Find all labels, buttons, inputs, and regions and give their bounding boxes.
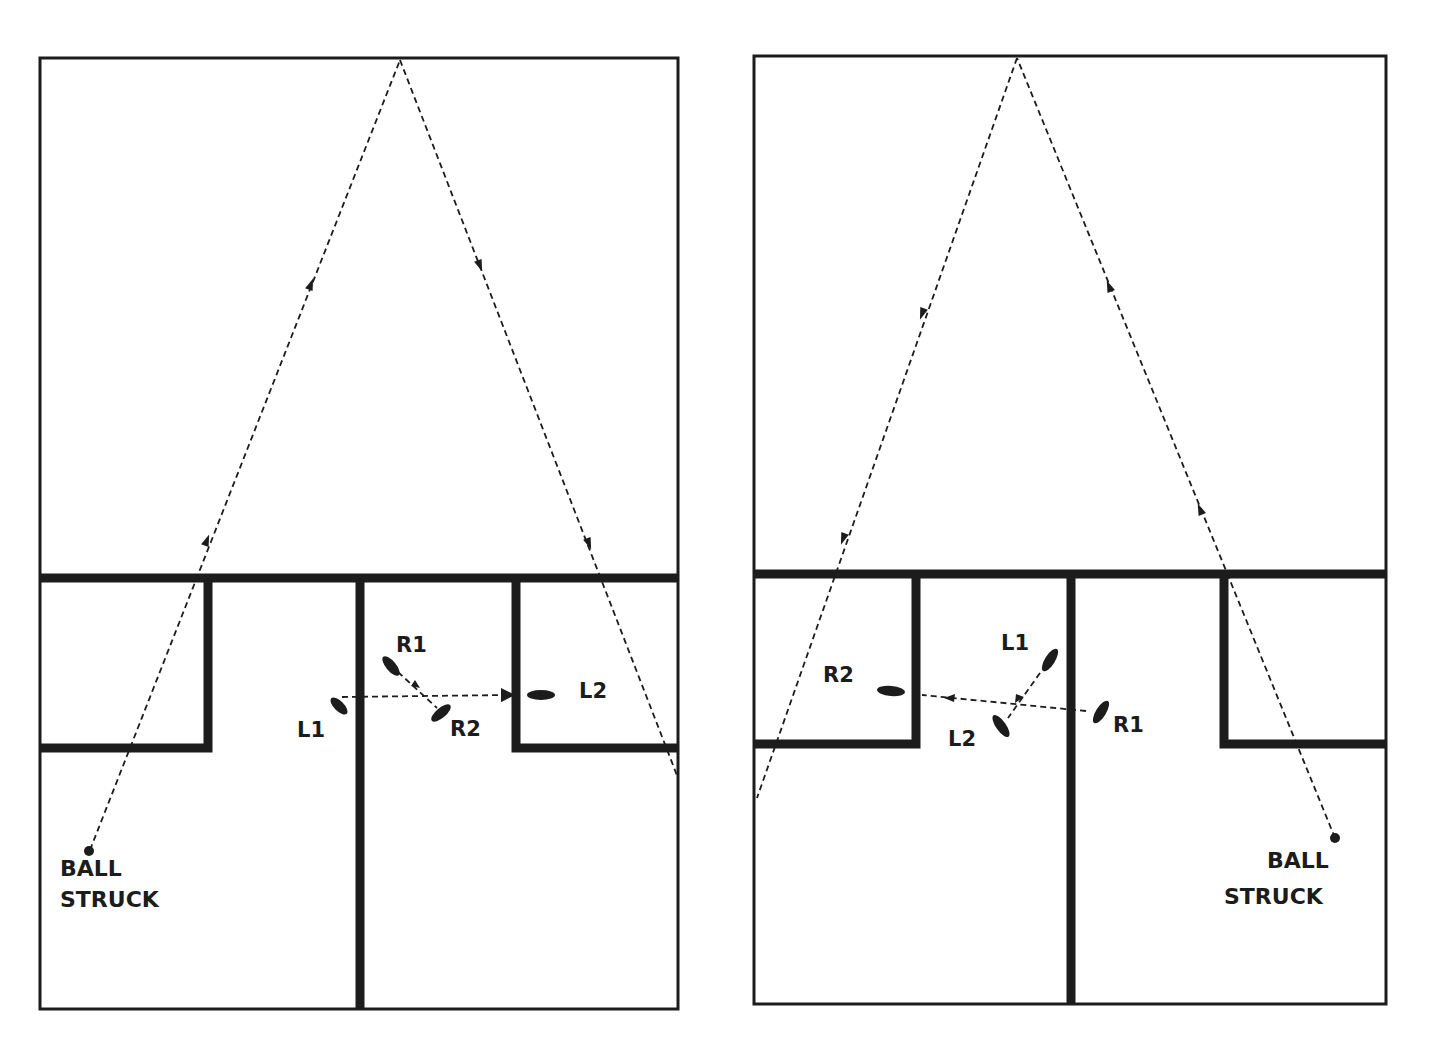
step-path-r1-r2 xyxy=(398,672,437,708)
footstep-label-l2: L2 xyxy=(579,679,607,703)
footstep-label-r2: R2 xyxy=(823,663,854,687)
footstep-label-r2: R2 xyxy=(450,717,481,741)
footprint-icon xyxy=(1090,698,1112,725)
left-service-box xyxy=(40,578,208,748)
left-court: BALL STRUCK R1 R2 L1 L2 xyxy=(40,58,678,1009)
arrowhead-icon xyxy=(1194,502,1206,516)
ball-dot-icon xyxy=(84,846,94,856)
arrowhead-icon xyxy=(474,259,486,273)
footprint-icon xyxy=(1039,646,1061,673)
ball-struck-label: BALL xyxy=(60,856,122,881)
footstep-label-l1: L1 xyxy=(1001,631,1029,655)
ball-path-down xyxy=(400,60,678,778)
ball-path-up xyxy=(90,60,400,850)
footprint-icon xyxy=(328,695,351,718)
ball-path-up xyxy=(1017,58,1335,838)
footprint-icon xyxy=(877,685,906,697)
left-service-box xyxy=(754,574,916,744)
footstep-label-l1: L1 xyxy=(297,718,325,742)
arrowhead-icon xyxy=(944,694,955,702)
ball-struck-label: STRUCK xyxy=(60,887,160,912)
footstep-label-r1: R1 xyxy=(396,633,427,657)
squash-footwork-diagram: BALL STRUCK R1 R2 L1 L2 BALL STRUCK xyxy=(0,0,1453,1047)
step-path-l1-l2 xyxy=(1008,673,1040,718)
right-service-box xyxy=(516,578,678,748)
ball-struck-label: BALL xyxy=(1267,848,1329,873)
arrowhead-icon xyxy=(1103,279,1115,293)
step-path-l1-l2 xyxy=(342,695,508,697)
ball-struck-label: STRUCK xyxy=(1224,884,1324,909)
footstep-label-l2: L2 xyxy=(948,727,976,751)
footstep-label-r1: R1 xyxy=(1113,713,1144,737)
right-service-box xyxy=(1224,574,1386,744)
ball-dot-icon xyxy=(1330,833,1340,843)
footprint-icon xyxy=(527,690,555,700)
arrowhead-icon xyxy=(411,680,420,688)
arrowhead-icon xyxy=(916,307,928,321)
footprint-icon xyxy=(379,654,402,679)
right-court: BALL STRUCK L1 L2 R1 R2 xyxy=(754,56,1386,1004)
arrowhead-icon xyxy=(305,277,317,291)
